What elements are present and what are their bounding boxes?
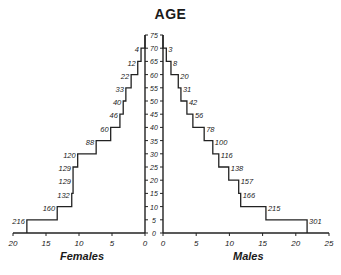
age-tick-label: 10 [150, 204, 158, 211]
age-tick-label: 30 [150, 151, 158, 158]
females-count-label: 129 [59, 164, 72, 173]
female-x-tick-label: 0 [143, 239, 148, 248]
females-axis-label: Females [60, 250, 104, 262]
females-count-label: 132 [57, 191, 70, 200]
males-count-label: 20 [179, 72, 189, 81]
age-tick-label: 55 [150, 85, 158, 92]
females-count-label: 33 [116, 85, 125, 94]
male-x-tick-label: 0 [161, 239, 166, 248]
females-count-label: 160 [43, 204, 56, 213]
female-x-tick-label: 5 [110, 239, 115, 248]
female-x-tick-label: 20 [8, 239, 18, 248]
age-tick-label: 45 [150, 111, 158, 118]
females-count-label: 40 [113, 98, 122, 107]
age-tick-label: 35 [150, 138, 158, 145]
age-tick-label: 75 [150, 32, 158, 39]
males-count-label: 31 [183, 85, 191, 94]
male-x-tick-label: 25 [324, 239, 334, 248]
females-count-label: 22 [120, 72, 130, 81]
male-x-tick-label: 10 [225, 239, 234, 248]
males-count-label: 166 [243, 191, 256, 200]
males-count-label: 157 [241, 177, 254, 186]
age-tick-label: 0 [152, 230, 156, 237]
males-count-label: 56 [195, 111, 204, 120]
females-count-label: 4 [135, 45, 139, 54]
females-count-label: 216 [11, 217, 25, 226]
age-tick-label: 20 [149, 177, 158, 184]
males-count-label: 100 [215, 138, 228, 147]
female-x-tick-label: 15 [42, 239, 51, 248]
female-x-tick-label: 10 [75, 239, 84, 248]
females-count-label: 12 [127, 59, 136, 68]
age-tick-label: 50 [150, 98, 158, 105]
females-count-label: 88 [86, 138, 95, 147]
population-pyramid-chart: 0510152025303540455055606570752015105005… [0, 0, 341, 275]
females-count-label: 129 [59, 177, 72, 186]
males-count-label: 301 [309, 217, 322, 226]
males-count-label: 138 [231, 164, 244, 173]
males-count-label: 78 [206, 125, 215, 134]
males-count-label: 215 [267, 204, 281, 213]
age-tick-label: 40 [150, 124, 158, 131]
males-count-label: 8 [173, 59, 178, 68]
males-step-outline [163, 35, 307, 233]
age-tick-label: 60 [150, 72, 158, 79]
males-axis-label: Males [233, 250, 264, 262]
male-x-tick-label: 20 [290, 239, 300, 248]
age-tick-label: 70 [150, 45, 158, 52]
males-count-label: 3 [168, 45, 173, 54]
age-tick-label: 5 [152, 217, 156, 224]
females-count-label: 46 [110, 111, 119, 120]
age-tick-label: 25 [149, 164, 158, 171]
males-count-label: 42 [189, 98, 198, 107]
females-count-label: 60 [100, 125, 109, 134]
male-x-tick-label: 5 [194, 239, 199, 248]
male-x-tick-label: 15 [258, 239, 267, 248]
males-count-label: 116 [221, 151, 234, 160]
females-count-label: 120 [63, 151, 76, 160]
age-tick-label: 65 [150, 58, 158, 65]
age-tick-label: 15 [150, 190, 158, 197]
